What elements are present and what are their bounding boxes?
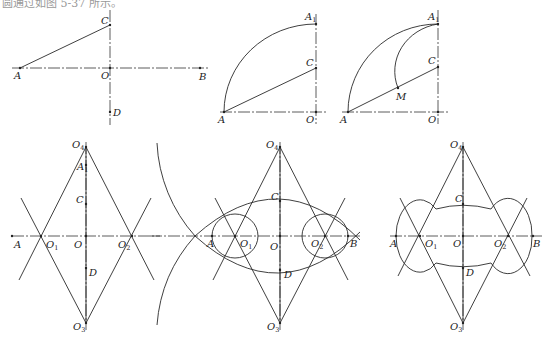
construction-line (20, 25, 110, 68)
point-label-d: D (465, 267, 474, 278)
point-marker (85, 235, 87, 237)
point-label-a1: A1 (427, 11, 439, 24)
point-label-b: B (349, 238, 357, 249)
figure-step2: AA1CO (217, 11, 327, 125)
point-label-o3: O3 (73, 321, 85, 334)
point-label-o2: O2 (311, 238, 323, 251)
construction-line (280, 198, 345, 323)
point-label-c: C (428, 55, 436, 66)
point-label-o4: O4 (450, 139, 462, 152)
ellipse-construction-diagram: 圆通过如图 5-37 所示。 ACOBDAA1COAA1CMOO4A1CO1OO… (0, 0, 549, 338)
construction-line (86, 147, 154, 280)
point-marker (40, 235, 42, 237)
point-label-o: O (306, 114, 314, 125)
construction-line (224, 68, 316, 112)
point-marker (437, 66, 439, 68)
point-marker (462, 322, 464, 324)
construction-line (280, 147, 348, 280)
point-marker (279, 269, 281, 271)
construction-arc (348, 24, 438, 112)
point-marker (462, 267, 464, 269)
construction-line (21, 198, 86, 323)
point-marker (279, 146, 281, 148)
point-label-a: A (389, 238, 397, 249)
figure-step5: O4CAO1OO2BDO3 (150, 139, 360, 334)
point-marker (85, 267, 87, 269)
point-label-a: A (339, 114, 347, 125)
figure-step6: O4CAO1OO2BDO3 (389, 139, 542, 334)
point-marker (19, 67, 21, 69)
point-label-b: B (532, 238, 540, 249)
point-marker (347, 235, 349, 237)
construction-line (398, 147, 463, 276)
point-label-a: A (13, 239, 21, 250)
point-marker (279, 322, 281, 324)
point-marker (507, 235, 509, 237)
point-label-a1: A1 (76, 161, 88, 174)
point-marker (395, 235, 397, 237)
point-marker (109, 24, 111, 26)
point-label-c: C (306, 57, 314, 68)
point-marker (109, 67, 111, 69)
point-marker (131, 235, 133, 237)
point-marker (437, 111, 439, 113)
point-marker (532, 235, 534, 237)
point-marker (85, 146, 87, 148)
construction-arc (224, 24, 316, 112)
point-label-o3: O3 (450, 321, 462, 334)
point-marker (11, 235, 13, 237)
point-label-o: O (453, 238, 461, 249)
diagram-canvas: ACOBDAA1COAA1CMOO4A1CO1OO2ADO3O4CAO1OO2B… (0, 0, 549, 338)
point-label-o: O (101, 70, 109, 81)
construction-line (86, 198, 151, 323)
point-marker (397, 87, 399, 89)
point-marker (223, 111, 225, 113)
point-marker (279, 235, 281, 237)
figure-step1: ACOBD (12, 10, 210, 125)
point-label-m: M (395, 91, 407, 102)
point-label-o4: O4 (72, 139, 84, 152)
point-label-d: D (112, 107, 121, 118)
point-label-o2: O2 (494, 238, 506, 251)
point-label-c: C (271, 191, 279, 202)
point-label-a: A (13, 70, 21, 81)
point-marker (347, 111, 349, 113)
figure-step4: O4A1CO1OO2ADO3 (11, 139, 160, 334)
point-marker (315, 111, 317, 113)
point-marker (234, 235, 236, 237)
point-label-o3: O3 (267, 321, 279, 334)
point-label-o: O (428, 114, 436, 125)
figure-step3: AA1CMO (339, 10, 450, 125)
point-label-c: C (101, 15, 109, 26)
point-marker (419, 235, 421, 237)
point-marker (109, 111, 111, 113)
construction-line (463, 198, 527, 323)
point-marker (85, 322, 87, 324)
point-marker (462, 235, 464, 237)
point-marker (279, 200, 281, 202)
point-label-c: C (455, 193, 463, 204)
point-marker (85, 203, 87, 205)
point-marker (199, 67, 201, 69)
point-marker (324, 235, 326, 237)
point-label-o: O (270, 241, 278, 252)
point-marker (315, 67, 317, 69)
point-marker (211, 235, 213, 237)
point-label-d: D (88, 267, 97, 278)
point-label-a: A (206, 238, 214, 249)
construction-line (400, 198, 463, 323)
point-label-a: A (217, 114, 225, 125)
point-label-c: C (76, 194, 84, 205)
point-label-o: O (74, 239, 82, 250)
construction-line (215, 198, 280, 323)
construction-arc (157, 236, 195, 325)
point-label-b: B (198, 71, 206, 82)
construction-line (348, 67, 438, 112)
point-label-a1: A1 (304, 11, 316, 24)
point-label-o1: O1 (425, 238, 437, 251)
point-label-d: D (283, 269, 292, 280)
point-label-o4: O4 (266, 139, 278, 152)
construction-arc (157, 143, 195, 236)
